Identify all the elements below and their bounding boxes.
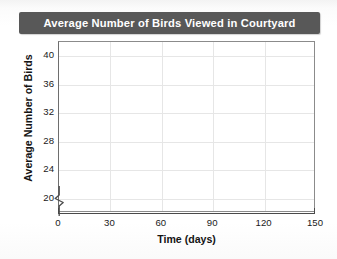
chart-title-banner: Average Number of Birds Viewed in Courty… <box>19 12 320 34</box>
y-axis-tick-label: 28 <box>32 136 54 146</box>
y-axis-title: Average Number of Birds <box>22 38 34 198</box>
y-axis-tick-label: 24 <box>32 164 54 174</box>
plot-area <box>58 41 315 212</box>
y-axis-break-icon <box>52 186 68 216</box>
chart-title: Average Number of Birds Viewed in Courty… <box>19 12 320 34</box>
y-axis-tick-label: 20 <box>32 193 54 203</box>
y-axis-tick-label: 32 <box>32 107 54 117</box>
x-axis-tick-label: 90 <box>195 217 229 228</box>
y-axis-tick-label: 36 <box>32 79 54 89</box>
x-axis-title: Time (days) <box>58 233 315 245</box>
x-axis-line <box>58 213 315 214</box>
x-axis-tick-label: 0 <box>41 217 75 228</box>
x-axis-tick-label: 150 <box>298 217 332 228</box>
data-series-layer <box>59 42 315 212</box>
y-axis-tick-label: 40 <box>32 50 54 60</box>
x-axis-tick-label: 30 <box>92 217 126 228</box>
x-axis-tick-label: 120 <box>247 217 281 228</box>
chart-figure: Average Number of Birds Viewed in Courty… <box>0 0 337 259</box>
x-axis-tick-label: 60 <box>144 217 178 228</box>
x-axis-tick-labels: 0306090120150 <box>0 217 337 231</box>
x-axis-right-cap <box>314 208 315 214</box>
